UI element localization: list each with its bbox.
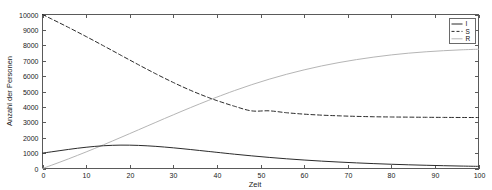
y-tick-label: 1000 <box>23 150 39 157</box>
y-tick-label: 4000 <box>23 104 39 111</box>
y-tick-label: 0 <box>35 166 39 173</box>
y-tick-label: 2000 <box>23 135 39 142</box>
y-tick-label: 8000 <box>23 42 39 49</box>
series-line-i <box>43 145 479 166</box>
y-tick-label: 3000 <box>23 119 39 126</box>
y-tick-label: 7000 <box>23 58 39 65</box>
x-axis-tick-labels: 0102030405060708090100 <box>42 172 486 179</box>
x-tick-label: 40 <box>214 172 222 179</box>
y-tick-label: 5000 <box>23 89 39 96</box>
y-axis-tick-labels: 0100020003000400050006000700080009000100… <box>19 12 39 173</box>
y-axis-title: Anzahl der Personen <box>5 56 14 126</box>
figure-canvas: 0102030405060708090100 01000200030004000… <box>0 0 492 190</box>
x-tick-label: 70 <box>345 172 353 179</box>
x-tick-label: 100 <box>474 172 486 179</box>
x-axis-title: Zeit <box>249 180 262 189</box>
legend-label-s: S <box>466 28 471 35</box>
series-line-r <box>43 49 479 168</box>
x-tick-label: 0 <box>42 172 46 179</box>
x-tick-label: 50 <box>258 172 266 179</box>
x-tick-label: 90 <box>432 172 440 179</box>
y-tick-label: 6000 <box>23 73 39 80</box>
y-axis-ticks <box>43 16 479 170</box>
series-lines <box>43 15 479 169</box>
x-tick-label: 20 <box>127 172 135 179</box>
x-tick-label: 30 <box>170 172 178 179</box>
y-tick-label: 10000 <box>19 12 39 19</box>
y-tick-label: 9000 <box>23 27 39 34</box>
sir-line-chart: 0102030405060708090100 01000200030004000… <box>0 0 492 190</box>
series-line-s <box>43 15 479 118</box>
x-tick-label: 80 <box>388 172 396 179</box>
x-tick-label: 10 <box>83 172 91 179</box>
x-tick-label: 60 <box>301 172 309 179</box>
chart-legend[interactable]: ISR <box>449 18 475 43</box>
legend-label-r: R <box>466 35 471 42</box>
legend-label-i: I <box>466 20 468 27</box>
